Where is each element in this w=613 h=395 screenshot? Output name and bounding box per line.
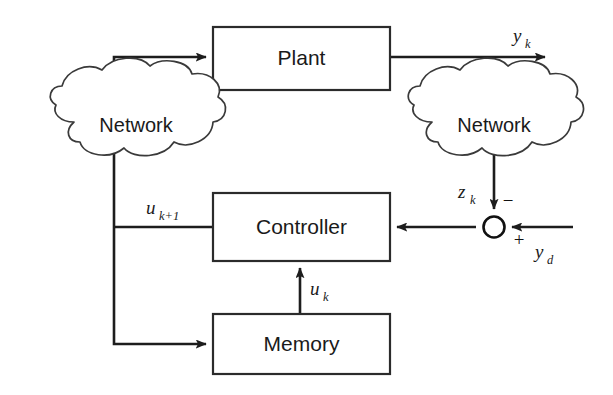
summing-junction[interactable] xyxy=(484,217,505,238)
block-plant[interactable]: Plant xyxy=(213,27,390,90)
signal-control-stored-base: u xyxy=(310,278,320,299)
signal-label-network-output: z k xyxy=(457,181,476,207)
signal-label-control-next: u k+1 xyxy=(146,197,179,223)
cloud-network-right[interactable]: Network xyxy=(408,58,583,156)
signal-label-control-stored: u k xyxy=(310,278,329,304)
diagram-svg: Plant Controller Memory Network Network … xyxy=(0,0,613,395)
plant-label: Plant xyxy=(278,46,326,69)
block-diagram-canvas: Plant Controller Memory Network Network … xyxy=(0,0,613,395)
signal-reference-sub: d xyxy=(547,253,554,267)
signal-plant-output-sub: k xyxy=(525,37,531,51)
block-memory[interactable]: Memory xyxy=(213,314,390,374)
block-controller[interactable]: Controller xyxy=(213,193,390,261)
memory-label: Memory xyxy=(264,332,340,355)
signal-label-plant-output: y k xyxy=(511,25,531,51)
cloud-network-left-label: Network xyxy=(99,114,173,136)
summing-junction-positive-sign: + xyxy=(514,229,525,250)
cloud-network-left[interactable]: Network xyxy=(50,58,225,156)
signal-network-output-base: z xyxy=(457,181,466,202)
controller-label: Controller xyxy=(256,215,347,238)
signal-control-next-sub: k+1 xyxy=(159,209,179,223)
summing-junction-negative-sign: − xyxy=(503,190,514,211)
signal-reference-base: y xyxy=(533,241,544,262)
signal-control-stored-sub: k xyxy=(323,290,329,304)
signal-network-output-sub: k xyxy=(470,193,476,207)
signal-plant-output-base: y xyxy=(511,25,522,46)
signal-label-reference: y d xyxy=(533,241,554,267)
wire-bus-down-to-memory xyxy=(114,227,206,344)
cloud-network-right-label: Network xyxy=(457,114,531,136)
signal-control-next-base: u xyxy=(146,197,156,218)
